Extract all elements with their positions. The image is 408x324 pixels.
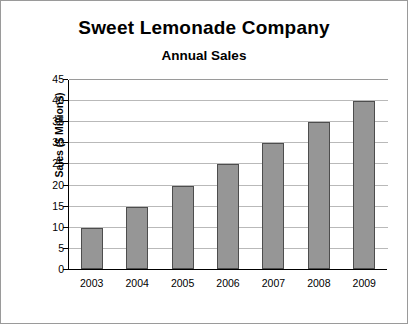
bar: [217, 164, 239, 269]
y-tick-label: 25: [40, 158, 64, 168]
bar: [81, 228, 103, 269]
y-tick-mark: [63, 142, 68, 143]
bar-slot: [69, 80, 114, 269]
y-tick-mark: [63, 227, 68, 228]
x-tick-label: 2006: [205, 277, 251, 289]
bar-slot: [114, 80, 159, 269]
x-tick-label: 2004: [114, 277, 160, 289]
bar-slot: [296, 80, 341, 269]
chart-figure: Sweet Lemonade Company Annual Sales Sale…: [0, 0, 408, 324]
bar: [308, 122, 330, 269]
y-tick-mark: [63, 121, 68, 122]
bar: [172, 186, 194, 269]
y-tick-mark: [63, 79, 68, 80]
y-tick-label: 40: [40, 95, 64, 105]
y-tick-mark: [63, 206, 68, 207]
y-tick-label: 15: [40, 201, 64, 211]
y-tick-label: 35: [40, 116, 64, 126]
y-tick-mark: [63, 185, 68, 186]
bar-slot: [205, 80, 250, 269]
x-tick-label: 2005: [160, 277, 206, 289]
y-tick-label: 10: [40, 222, 64, 232]
y-tick-label: 0: [40, 264, 64, 274]
x-tick-label: 2007: [250, 277, 296, 289]
bar-slot: [251, 80, 296, 269]
chart-subtitle: Annual Sales: [1, 48, 407, 63]
y-tick-label: 30: [40, 137, 64, 147]
y-tick-label: 45: [40, 74, 64, 84]
bar-series: [69, 80, 387, 269]
bar: [262, 143, 284, 269]
bar: [353, 101, 375, 269]
x-tick-label: 2003: [69, 277, 115, 289]
y-tick-mark: [63, 248, 68, 249]
bar-slot: [342, 80, 387, 269]
x-tick-label: 2009: [341, 277, 387, 289]
chart-title: Sweet Lemonade Company: [1, 17, 407, 39]
bar: [126, 207, 148, 269]
y-tick-mark: [63, 269, 68, 270]
bar-slot: [160, 80, 205, 269]
y-tick-mark: [63, 163, 68, 164]
y-tick-label: 5: [40, 243, 64, 253]
y-tick-label: 20: [40, 180, 64, 190]
y-tick-mark: [63, 100, 68, 101]
x-tick-label: 2008: [296, 277, 342, 289]
